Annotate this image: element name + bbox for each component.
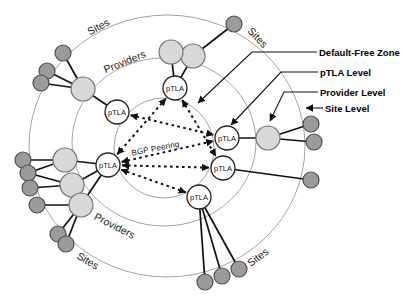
provider-node: [53, 148, 77, 172]
ptla-node-label: pTLA: [108, 108, 126, 117]
nodes-layer: [15, 16, 322, 290]
provider-node: [159, 40, 183, 64]
ptla-node-label: pTLA: [214, 164, 232, 173]
site-node: [29, 197, 45, 213]
provider-level-label: Provider Level: [320, 87, 385, 98]
site-node: [20, 165, 36, 181]
default-free-zone-label: Default-Free Zone: [319, 47, 400, 58]
ptla-level-pointer: [231, 72, 318, 125]
site-node: [22, 180, 38, 196]
ptla-node-label: pTLA: [166, 84, 184, 93]
ptla-node-label: pTLA: [190, 193, 208, 202]
bgp-peering-label: BGP Peering: [131, 139, 181, 157]
site-node: [303, 116, 319, 132]
provider-node: [71, 77, 95, 101]
site-node: [197, 274, 213, 290]
sites-label-top-right: Sites: [246, 25, 271, 50]
site-node: [33, 75, 49, 91]
provider-node: [181, 44, 205, 68]
default-free-zone-pointer: [198, 52, 317, 103]
figure: Default-Free ZonepTLA LevelProvider Leve…: [0, 0, 419, 305]
providers-label-bottom-left: Providers: [92, 210, 137, 241]
site-node: [303, 172, 319, 188]
bgp-peering-link: [122, 165, 209, 167]
ptla-node-label: pTLA: [99, 161, 117, 170]
sites-label-top-left: Sites: [85, 16, 111, 38]
site-node: [231, 261, 247, 277]
site-node: [306, 134, 322, 150]
bgp-peering-link: [131, 115, 214, 135]
providers-label-top-left: Providers: [102, 47, 148, 75]
network-diagram: Default-Free ZonepTLA LevelProvider Leve…: [0, 0, 419, 305]
site-node: [226, 16, 242, 32]
ptla-level-label: pTLA Level: [320, 67, 371, 78]
provider-node: [256, 126, 280, 150]
site-level-label: Site Level: [325, 103, 369, 114]
ptla-node-label: pTLA: [218, 134, 236, 143]
callout-lines-layer: [198, 52, 323, 125]
site-node: [55, 45, 71, 61]
bgp-peering-link: [121, 170, 186, 193]
sites-label-bottom-right: Sites: [245, 245, 271, 269]
site-node: [58, 236, 74, 252]
site-node: [214, 268, 230, 284]
provider-node: [69, 193, 93, 217]
link-ptla-mid-right-site-r-3: [223, 168, 311, 180]
sites-label-bottom-left: Sites: [75, 249, 101, 271]
